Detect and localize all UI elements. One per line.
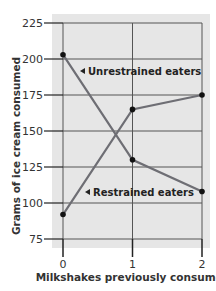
x-tick-label: 2 (199, 258, 206, 271)
y-tick-label: 75 (29, 233, 43, 246)
unrestrained-series-label: Unrestrained eaters (80, 66, 201, 77)
y-tick-label: 225 (22, 17, 43, 30)
x-tick-label: 0 (60, 258, 67, 271)
data-point-marker (60, 212, 66, 218)
y-tick-label: 150 (22, 125, 43, 138)
data-point-marker (130, 107, 136, 113)
restrained-label-text: Restrained eaters (93, 187, 194, 198)
unrestrained-label-text: Unrestrained eaters (88, 66, 201, 77)
y-tick-label: 100 (22, 197, 43, 210)
data-point-marker (199, 189, 205, 195)
y-tick-label: 200 (22, 53, 43, 66)
x-axis-label: Milkshakes previously consumed (36, 271, 216, 283)
data-point-marker (130, 157, 136, 163)
y-tick-label: 175 (22, 89, 43, 102)
x-tick-label: 1 (129, 258, 136, 271)
data-point-marker (199, 92, 205, 98)
restrained-series-label: Restrained eaters (85, 187, 194, 198)
line-chart: 75100125150175200225 012 Unrestrained ea… (0, 0, 216, 291)
y-tick-label: 125 (22, 161, 43, 174)
data-point-marker (60, 52, 66, 58)
y-axis-label: Grams of ice cream consumed (10, 57, 22, 235)
